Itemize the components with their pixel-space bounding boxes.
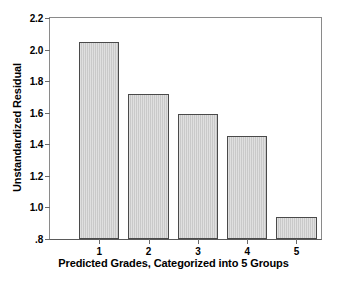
x-tick-mark	[99, 239, 100, 244]
x-tick-label: 2	[146, 246, 151, 257]
bar	[128, 94, 168, 239]
plot-area: 2.22.01.81.61.41.21.0.8 12345	[49, 17, 322, 240]
y-tick-label: 1.6	[13, 107, 43, 118]
y-tick-label: 1.4	[13, 139, 43, 150]
y-tick-mark	[45, 81, 50, 82]
x-tick-label: 3	[195, 246, 200, 257]
x-tick-mark	[149, 239, 150, 244]
x-tick-mark	[198, 239, 199, 244]
x-axis-title: Predicted Grades, Categorized into 5 Gro…	[0, 257, 347, 269]
y-tick-label: 1.2	[13, 170, 43, 181]
bar	[178, 114, 218, 239]
y-tick-mark	[45, 207, 50, 208]
y-tick-mark	[45, 176, 50, 177]
bar	[276, 217, 316, 239]
y-tick-mark	[45, 113, 50, 114]
y-tick-label: 2.0	[13, 44, 43, 55]
y-tick-label: 1.8	[13, 76, 43, 87]
y-tick-mark	[45, 239, 50, 240]
x-tick-label: 1	[97, 246, 102, 257]
bar	[227, 136, 267, 239]
y-tick-label: 1.0	[13, 202, 43, 213]
y-tick-label: .8	[13, 234, 43, 245]
bar-chart: Unstandardized Residual 2.22.01.81.61.41…	[0, 0, 347, 285]
y-tick-label: 2.2	[13, 13, 43, 24]
y-tick-mark	[45, 18, 50, 19]
bar	[79, 42, 119, 239]
y-tick-mark	[45, 144, 50, 145]
x-tick-label: 5	[294, 246, 299, 257]
y-tick-mark	[45, 50, 50, 51]
x-tick-mark	[247, 239, 248, 244]
x-tick-label: 4	[244, 246, 249, 257]
x-tick-mark	[296, 239, 297, 244]
